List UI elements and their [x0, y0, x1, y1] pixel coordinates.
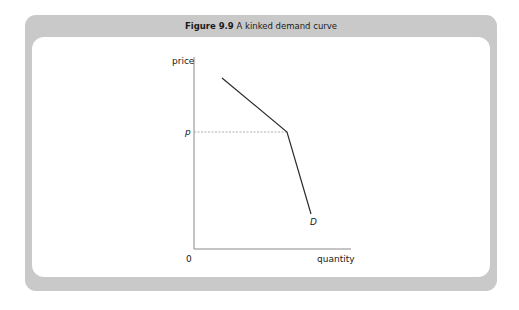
demand-curve: [222, 78, 311, 214]
demand-chart: price p D 0 quantity: [0, 0, 519, 310]
x-axis-label: quantity: [317, 254, 355, 264]
price-level-label: p: [184, 127, 191, 137]
curve-label: D: [310, 217, 317, 227]
origin-label: 0: [186, 254, 192, 264]
y-axis-label: price: [172, 56, 195, 66]
